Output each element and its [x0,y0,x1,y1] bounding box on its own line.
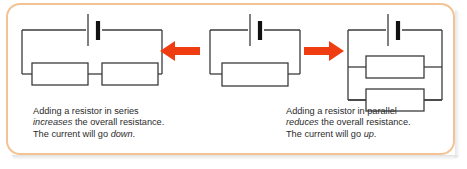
frame-shadow-bottom [12,155,459,160]
single-resistor-circuit-diagram [196,10,318,100]
series-caption-line-2: increases the overall resistance. [33,117,164,128]
series-caption: Adding a resistor in series increases th… [33,106,164,140]
parallel-circuit-diagram [338,10,456,115]
resistor-1 [222,63,288,86]
series-circuit-diagram [14,10,176,100]
resistor-1 [366,56,424,78]
series-caption-line-3: The current will go down. [33,129,164,140]
parallel-caption: Adding a resistor in parallel reduces th… [286,106,411,140]
parallel-caption-line-3: The current will go up. [286,129,411,140]
resistor-1 [32,63,88,85]
arrow-left-shape [160,41,200,61]
series-caption-line-1: Adding a resistor in series [33,106,164,117]
resistor-2 [102,63,158,85]
parallel-caption-line-1: Adding a resistor in parallel [286,106,411,117]
parallel-caption-line-2: reduces the overall resistance. [286,117,411,128]
figure-container: Adding a resistor in series increases th… [0,0,467,169]
